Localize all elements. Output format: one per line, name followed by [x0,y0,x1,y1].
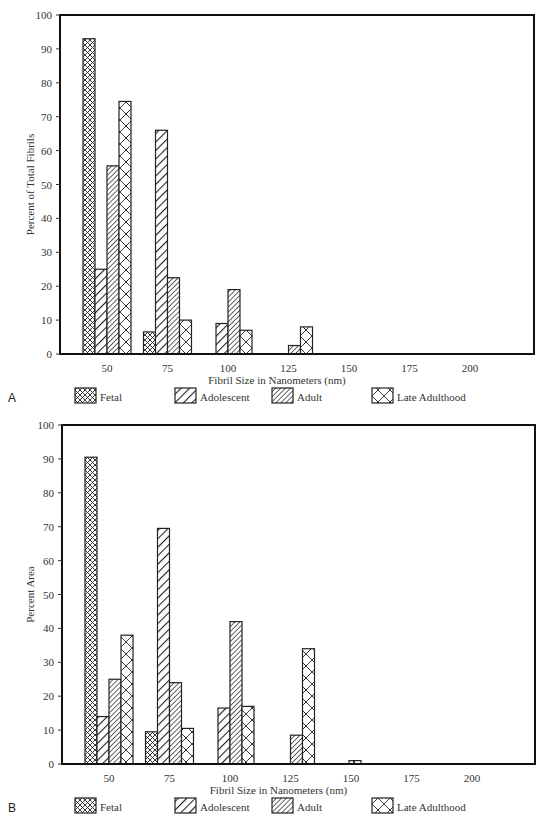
bar-fetal-75 [144,332,156,354]
bar-adolescent-75 [158,528,170,764]
bar-late-adulthood-50 [119,101,131,354]
y-tick-label: 100 [36,9,53,21]
x-tick-label: 125 [280,362,297,374]
legend-item-adult: Adult [272,798,322,813]
y-tick-label: 60 [43,555,55,567]
x-tick-label: 125 [282,772,299,784]
legend-item-fetal: Fetal [75,388,122,403]
bar-late-adulthood-100 [240,330,252,354]
y-tick-label: 10 [43,724,55,736]
bar-adult-125 [289,346,301,354]
x-tick-label: 150 [343,772,360,784]
x-tick-label: 175 [401,362,418,374]
x-tick-label: 100 [220,362,237,374]
y-tick-label: 30 [43,656,55,668]
y-tick-label: 60 [41,145,53,157]
bar-adult-125 [291,735,303,764]
legend-label: Fetal [100,801,122,813]
bar-adult-100 [230,622,242,764]
y-tick-label: 90 [43,453,55,465]
bar-adult-50 [109,679,121,764]
x-tick-label: 175 [403,772,420,784]
y-tick-label: 90 [41,43,53,55]
bar-adolescent-100 [216,323,228,354]
legend-swatch [175,798,196,813]
bar-adult-100 [228,290,240,354]
x-axis-label: Fibril Size in Nanometers (nm) [210,784,348,797]
chart-panel-b: 0102030405060708090100507510012515017520… [8,419,535,815]
legend-item-adolescent: Adolescent [175,798,249,813]
y-tick-label: 40 [41,212,53,224]
legend-swatch [272,388,293,403]
bar-late-adulthood-100 [242,706,254,764]
bar-adolescent-100 [218,708,230,764]
x-tick-label: 200 [464,772,481,784]
legend-swatch [75,798,96,813]
y-tick-label: 10 [41,314,53,326]
bar-late-adulthood-125 [301,327,313,354]
y-tick-label: 70 [43,521,55,533]
legend-label: Late Adulthood [397,391,466,403]
bar-adult-75 [168,278,180,354]
legend-label: Fetal [100,391,122,403]
panel-letter: A [8,391,16,405]
y-tick-label: 30 [41,246,53,258]
bar-adolescent-75 [156,130,168,354]
x-tick-label: 100 [222,772,239,784]
legend-swatch [372,798,393,813]
chart-panel-a: 0102030405060708090100507510012515017520… [8,9,534,405]
bar-late-adulthood-125 [303,649,315,764]
y-tick-label: 50 [41,179,53,191]
legend-item-adolescent: Adolescent [175,388,249,403]
bar-late-adulthood-75 [182,728,194,764]
y-tick-label: 0 [49,758,55,770]
legend-item-late-adulthood: Late Adulthood [372,798,466,813]
y-tick-label: 40 [43,622,55,634]
bar-adolescent-50 [95,269,107,354]
bar-adult-75 [170,683,182,764]
x-tick-label: 75 [162,362,174,374]
bar-fetal-75 [146,732,158,764]
y-axis-label: Percent Area [24,566,36,623]
legend-label: Adult [297,391,322,403]
legend-swatch [272,798,293,813]
legend-swatch [75,388,96,403]
y-tick-label: 100 [38,419,55,431]
y-tick-label: 20 [43,690,55,702]
y-tick-label: 70 [41,111,53,123]
x-tick-label: 50 [104,772,116,784]
y-tick-label: 80 [41,77,53,89]
x-tick-label: 75 [164,772,176,784]
legend-item-late-adulthood: Late Adulthood [372,388,466,403]
bar-adult-50 [107,166,119,354]
legend-item-adult: Adult [272,388,322,403]
bar-late-adulthood-75 [180,320,192,354]
legend-label: Adolescent [200,801,249,813]
legend-label: Adolescent [200,391,249,403]
y-tick-label: 50 [43,589,55,601]
figure: 0102030405060708090100507510012515017520… [0,0,543,823]
x-tick-label: 150 [341,362,358,374]
bar-adolescent-50 [97,717,109,764]
legend-swatch [175,388,196,403]
y-tick-label: 0 [47,348,53,360]
y-tick-label: 80 [43,487,55,499]
bar-fetal-50 [85,457,97,764]
y-tick-label: 20 [41,280,53,292]
panel-letter: B [8,801,16,815]
legend-label: Late Adulthood [397,801,466,813]
legend-swatch [372,388,393,403]
x-tick-label: 50 [102,362,114,374]
bar-late-adulthood-50 [121,635,133,764]
x-axis-label: Fibril Size in Nanometers (nm) [208,374,346,387]
x-tick-label: 200 [462,362,479,374]
bar-fetal-50 [83,39,95,354]
legend-item-fetal: Fetal [75,798,122,813]
legend-label: Adult [297,801,322,813]
y-axis-label: Percent of Total Fibrils [24,134,36,235]
